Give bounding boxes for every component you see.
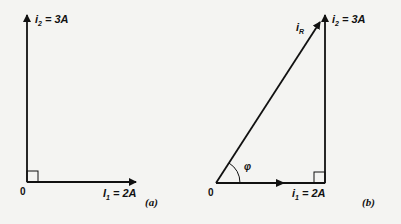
label-phi: φ xyxy=(244,161,251,172)
caption-panel-b: (b) xyxy=(362,196,375,209)
panel-b: iR i2 = 3A φ 0 i1 = 2A (b) xyxy=(208,13,375,209)
label-i1-panel-b: i1 = 2A xyxy=(292,187,326,201)
origin-label-panel-b: 0 xyxy=(208,187,214,198)
right-angle-marker-panel-a xyxy=(27,171,38,182)
angle-arc-phi xyxy=(229,163,240,183)
phasor-diagram-svg: i2 = 3A 0 I1 = 2A (a) iR i2 = 3A φ 0 i1 … xyxy=(0,0,401,224)
right-angle-marker-panel-b xyxy=(314,172,325,183)
vector-iR-panel-b xyxy=(216,22,320,183)
arrowhead-i1-panel-b xyxy=(276,179,285,187)
label-i1-panel-a: I1 = 2A xyxy=(103,187,137,201)
caption-panel-a: (a) xyxy=(145,196,158,209)
phasor-diagram-figure: i2 = 3A 0 I1 = 2A (a) iR i2 = 3A φ 0 i1 … xyxy=(0,0,401,224)
label-i2-panel-b: i2 = 3A xyxy=(332,13,366,27)
label-i2-panel-a: i2 = 3A xyxy=(35,13,69,27)
origin-label-panel-a: 0 xyxy=(20,186,26,197)
label-iR-panel-b: iR xyxy=(296,21,304,35)
panel-a: i2 = 3A 0 I1 = 2A (a) xyxy=(20,13,158,209)
